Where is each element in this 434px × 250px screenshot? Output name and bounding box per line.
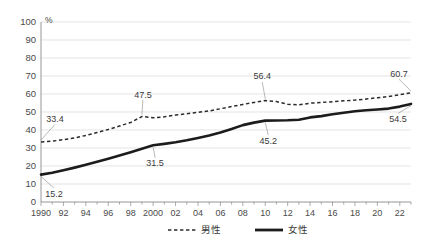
gridlines — [41, 22, 411, 184]
x-axis-tick-labels: 19909294969820000204060810121416182022 — [31, 208, 405, 218]
chart-legend: 男性女性 — [168, 224, 308, 235]
data-label: 15.2 — [45, 189, 63, 199]
y-axis-tick-label: 60 — [25, 88, 36, 99]
y-axis-tick-label: 30 — [25, 142, 36, 153]
data-label: 33.4 — [46, 114, 64, 124]
x-axis-tick-label: 10 — [260, 208, 270, 218]
data-label-leader — [265, 122, 268, 135]
y-axis-tick-label: 90 — [25, 34, 36, 45]
x-axis-tick-label: 2000 — [143, 208, 163, 218]
y-axis-tick-label: 70 — [25, 70, 36, 81]
x-axis-tick-label: 22 — [395, 208, 405, 218]
data-label-group: 33.447.556.460.715.231.545.254.5 — [41, 69, 411, 199]
y-axis-tick-label: 10 — [25, 178, 36, 189]
chart-canvas: 0102030405060708090100 19909294969820000… — [0, 0, 434, 250]
data-label: 60.7 — [390, 69, 408, 79]
x-axis-tick-label: 04 — [193, 208, 203, 218]
legend-label-female: 女性 — [288, 224, 308, 235]
x-axis-tick-label: 06 — [215, 208, 225, 218]
data-label-leader — [142, 100, 143, 115]
y-axis-tick-label: 20 — [25, 160, 36, 171]
y-axis-tick-label: 80 — [25, 52, 36, 63]
y-axis-tick-label: 50 — [25, 106, 36, 117]
y-axis-tick-label: 40 — [25, 124, 36, 135]
data-label-leader — [399, 79, 411, 91]
data-label-leader — [41, 124, 55, 140]
data-label-leader — [262, 82, 265, 99]
data-label: 54.5 — [389, 114, 407, 124]
y-axis-tick-label: 0 — [31, 196, 36, 207]
x-axis-tick-label: 92 — [58, 208, 68, 218]
data-series-group — [41, 93, 411, 175]
x-axis-tick-label: 08 — [238, 208, 248, 218]
x-axis-tick-marks — [41, 202, 411, 206]
data-label: 31.5 — [146, 158, 164, 168]
data-label: 56.4 — [253, 71, 271, 81]
x-axis-tick-label: 12 — [283, 208, 293, 218]
x-axis-tick-label: 98 — [126, 208, 136, 218]
x-axis-tick-label: 96 — [103, 208, 113, 218]
x-axis-tick-label: 14 — [305, 208, 315, 218]
legend-label-male: 男性 — [201, 224, 221, 235]
y-axis-unit-label: % — [45, 15, 53, 25]
data-label: 47.5 — [134, 90, 152, 100]
data-label-leader — [153, 147, 155, 158]
y-axis-tick-label: 100 — [20, 16, 36, 27]
x-axis-tick-label: 02 — [171, 208, 181, 218]
x-axis-tick-label: 1990 — [31, 208, 51, 218]
series-line-female — [41, 104, 411, 175]
x-axis-tick-label: 94 — [81, 208, 91, 218]
data-label: 45.2 — [259, 136, 277, 146]
x-axis-tick-label: 16 — [328, 208, 338, 218]
y-axis-tick-labels: 0102030405060708090100 — [20, 16, 36, 207]
x-axis-tick-label: 18 — [350, 208, 360, 218]
x-axis-tick-label: 20 — [372, 208, 382, 218]
data-label-leader — [41, 176, 54, 188]
series-line-male — [41, 93, 411, 142]
line-chart: 0102030405060708090100 19909294969820000… — [0, 0, 434, 250]
